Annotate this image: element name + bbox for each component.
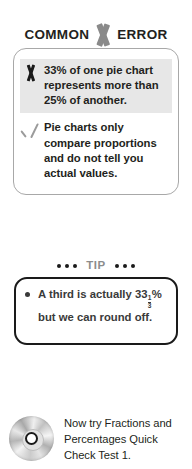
check-mark-icon bbox=[24, 120, 44, 141]
tip-text-before: A third is actually 33 bbox=[38, 288, 147, 300]
tip-box: A third is actually 3313% but we can rou… bbox=[14, 277, 178, 345]
x-mark-icon bbox=[24, 63, 44, 84]
common-error-row-list: 33% of one pie chart represents more tha… bbox=[14, 49, 178, 194]
tip-header: TIP bbox=[0, 258, 192, 274]
tip-dots-right bbox=[115, 264, 136, 268]
common-error-row-correct-text: Pie charts only compare proportions and … bbox=[44, 120, 168, 181]
common-error-header: COMMON ERROR bbox=[0, 22, 192, 48]
cd-footer-block: Now try Fractions and Percentages Quick … bbox=[8, 414, 192, 464]
tip-dots-left bbox=[57, 264, 78, 268]
tip-header-label: TIP bbox=[86, 260, 106, 272]
dot-icon bbox=[73, 264, 77, 268]
x-cross-icon bbox=[92, 23, 114, 47]
bullet-point-icon bbox=[25, 287, 38, 297]
common-error-box: 33% of one pie chart represents more tha… bbox=[13, 48, 179, 195]
tip-text: A third is actually 3313% but we can rou… bbox=[38, 287, 168, 325]
cd-footer-text: Now try Fractions and Percentages Quick … bbox=[64, 414, 192, 464]
fraction-denominator: 3 bbox=[148, 302, 152, 310]
dot-icon bbox=[123, 264, 127, 268]
dot-icon bbox=[115, 264, 119, 268]
cd-disc-icon bbox=[8, 414, 56, 462]
common-error-row-incorrect-text: 33% of one pie chart represents more tha… bbox=[44, 63, 168, 108]
dot-icon bbox=[65, 264, 69, 268]
common-error-header-right-word: ERROR bbox=[117, 28, 167, 42]
common-error-row-correct: Pie charts only compare proportions and … bbox=[20, 118, 172, 185]
dot-icon bbox=[57, 264, 61, 268]
common-error-header-left-word: COMMON bbox=[24, 28, 89, 42]
dot-icon bbox=[131, 264, 135, 268]
common-error-row-incorrect: 33% of one pie chart represents more tha… bbox=[20, 59, 172, 113]
tip-row: A third is actually 3313% but we can rou… bbox=[16, 279, 176, 325]
